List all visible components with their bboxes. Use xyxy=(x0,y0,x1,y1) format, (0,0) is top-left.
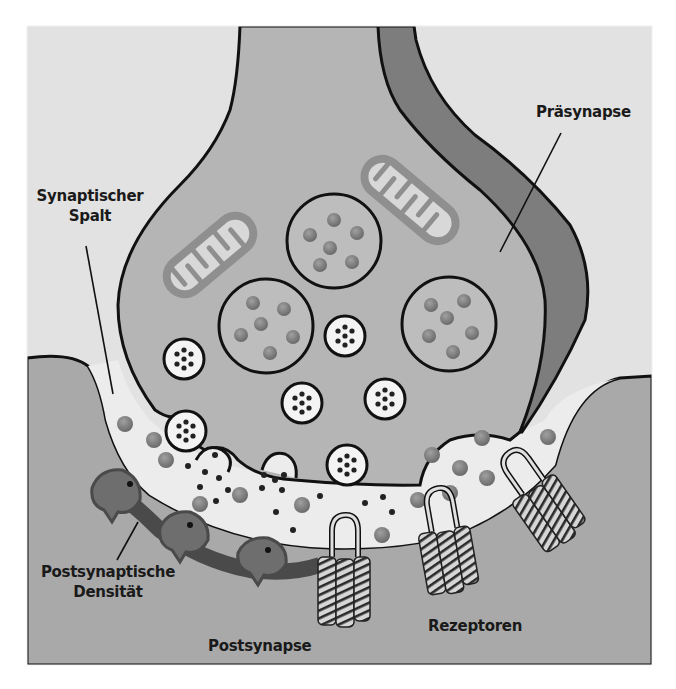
label-synaptic-cleft-line1: Synaptischer xyxy=(34,186,146,206)
synapse-diagram: Präsynapse Synaptischer Spalt Postsynapt… xyxy=(0,0,676,689)
label-receptors: Rezeptoren xyxy=(428,616,522,636)
large-vesicle xyxy=(219,279,313,373)
label-psd-line1: Postsynaptische xyxy=(38,562,178,582)
label-synaptic-cleft-line2: Spalt xyxy=(34,206,146,226)
large-vesicle xyxy=(287,194,381,288)
large-vesicle xyxy=(402,277,496,371)
label-synaptic-cleft: Synaptischer Spalt xyxy=(34,186,146,226)
label-psd-line2: Densität xyxy=(38,582,178,602)
label-presynapse: Präsynapse xyxy=(536,102,631,122)
label-postsynapse: Postsynapse xyxy=(208,636,311,656)
label-postsynaptic-density: Postsynaptische Densität xyxy=(38,562,178,602)
